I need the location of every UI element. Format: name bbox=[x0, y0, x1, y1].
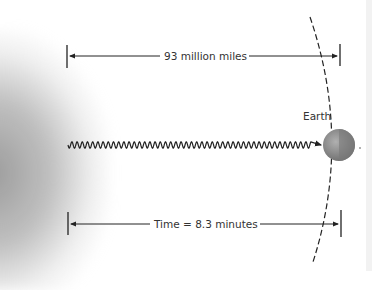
light-wave bbox=[68, 142, 321, 148]
distance-label: 93 million miles bbox=[162, 50, 249, 62]
earth bbox=[323, 129, 361, 161]
time-label: Time = 8.3 minutes bbox=[152, 218, 260, 230]
earth-label: Earth bbox=[301, 110, 333, 122]
